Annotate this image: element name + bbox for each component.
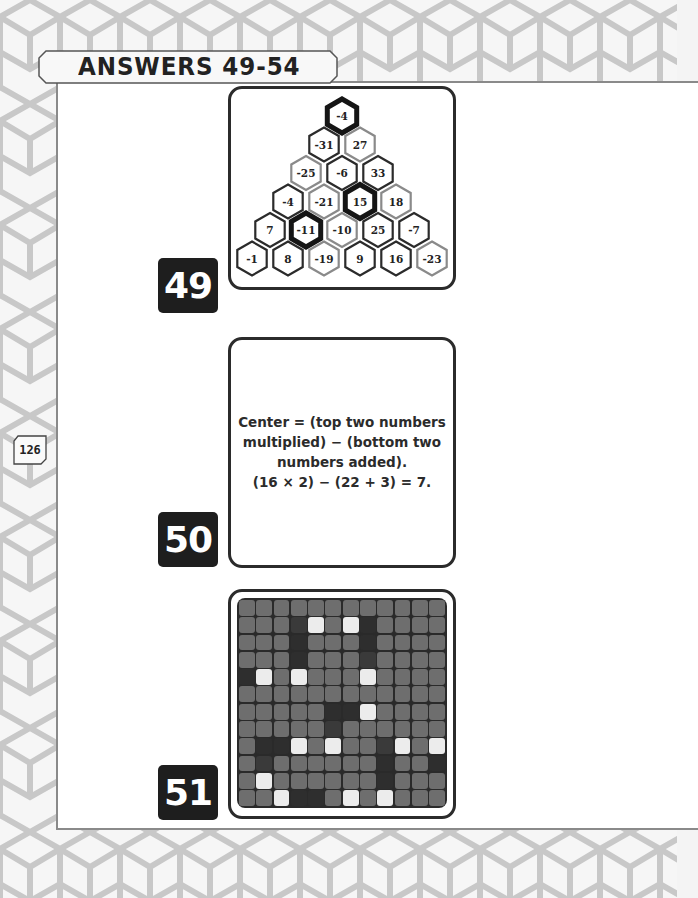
grid-cell bbox=[395, 721, 411, 737]
grid-cell bbox=[412, 669, 428, 685]
grid-cell bbox=[256, 756, 272, 772]
grid-cell bbox=[395, 652, 411, 668]
grid-cell bbox=[291, 721, 307, 737]
hex-value: 27 bbox=[342, 135, 378, 155]
grid-cell bbox=[274, 756, 290, 772]
grid-cell bbox=[343, 721, 359, 737]
grid-cell bbox=[256, 686, 272, 702]
grid-cell bbox=[274, 686, 290, 702]
hex-value: -25 bbox=[288, 163, 324, 183]
grid-cell bbox=[308, 669, 324, 685]
grid-cell bbox=[377, 773, 393, 789]
color-grid bbox=[237, 598, 447, 808]
grid-cell bbox=[429, 617, 445, 633]
grid-cell bbox=[325, 652, 341, 668]
grid-cell bbox=[412, 790, 428, 806]
grid-cell bbox=[343, 669, 359, 685]
grid-cell bbox=[395, 773, 411, 789]
grid-cell bbox=[343, 686, 359, 702]
grid-cell bbox=[256, 721, 272, 737]
page-number-tab: 126 bbox=[13, 435, 47, 465]
grid-cell bbox=[239, 686, 255, 702]
grid-cell bbox=[274, 790, 290, 806]
grid-cell bbox=[412, 635, 428, 651]
grid-cell bbox=[239, 617, 255, 633]
grid-cell bbox=[325, 721, 341, 737]
grid-cell bbox=[291, 635, 307, 651]
grid-cell bbox=[360, 617, 376, 633]
grid-cell bbox=[412, 721, 428, 737]
explanation-line: multiplied) − (bottom two bbox=[231, 432, 453, 452]
grid-cell bbox=[291, 617, 307, 633]
grid-cell bbox=[239, 669, 255, 685]
grid-cell bbox=[239, 635, 255, 651]
hex-value: 9 bbox=[342, 249, 378, 269]
hex-value: -11 bbox=[288, 220, 324, 240]
grid-cell bbox=[239, 773, 255, 789]
grid-cell bbox=[360, 721, 376, 737]
answer-49-box: -4-3127-25-633-4-2115187-11-1025-7-18-19… bbox=[228, 86, 456, 290]
grid-cell bbox=[412, 617, 428, 633]
grid-cell bbox=[395, 600, 411, 616]
hex-value: -31 bbox=[306, 135, 342, 155]
grid-cell bbox=[360, 773, 376, 789]
grid-cell bbox=[429, 600, 445, 616]
grid-cell bbox=[256, 635, 272, 651]
grid-cell bbox=[325, 704, 341, 720]
hex-value: 25 bbox=[360, 220, 396, 240]
grid-cell bbox=[274, 652, 290, 668]
grid-cell bbox=[343, 790, 359, 806]
grid-cell bbox=[395, 704, 411, 720]
hex-value: -4 bbox=[324, 106, 360, 126]
grid-cell bbox=[343, 600, 359, 616]
answer-50-box: Center = (top two numbers multiplied) − … bbox=[228, 337, 456, 568]
hex-value: -7 bbox=[396, 220, 432, 240]
grid-cell bbox=[360, 600, 376, 616]
grid-cell bbox=[377, 600, 393, 616]
hex-value: 33 bbox=[360, 163, 396, 183]
grid-cell bbox=[377, 756, 393, 772]
grid-cell bbox=[256, 669, 272, 685]
grid-cell bbox=[308, 773, 324, 789]
grid-cell bbox=[343, 635, 359, 651]
grid-cell bbox=[360, 686, 376, 702]
grid-cell bbox=[429, 756, 445, 772]
grid-cell bbox=[291, 756, 307, 772]
hex-value: 16 bbox=[378, 249, 414, 269]
grid-cell bbox=[239, 704, 255, 720]
hex-value: -4 bbox=[270, 192, 306, 212]
grid-cell bbox=[325, 635, 341, 651]
explanation-line: (16 × 2) − (22 + 3) = 7. bbox=[231, 472, 453, 492]
grid-cell bbox=[377, 738, 393, 754]
grid-cell bbox=[274, 721, 290, 737]
section-title: ANSWERS 49-54 bbox=[78, 50, 301, 82]
grid-cell bbox=[274, 617, 290, 633]
grid-cell bbox=[325, 790, 341, 806]
grid-cell bbox=[325, 773, 341, 789]
grid-cell bbox=[308, 738, 324, 754]
grid-cell bbox=[412, 738, 428, 754]
grid-cell bbox=[239, 738, 255, 754]
grid-cell bbox=[395, 617, 411, 633]
explanation-line: numbers added). bbox=[231, 452, 453, 472]
grid-cell bbox=[274, 773, 290, 789]
grid-cell bbox=[291, 686, 307, 702]
grid-cell bbox=[360, 756, 376, 772]
grid-cell bbox=[325, 738, 341, 754]
grid-cell bbox=[291, 652, 307, 668]
grid-cell bbox=[291, 790, 307, 806]
grid-cell bbox=[239, 756, 255, 772]
grid-cell bbox=[377, 790, 393, 806]
grid-cell bbox=[412, 704, 428, 720]
grid-cell bbox=[308, 721, 324, 737]
grid-cell bbox=[429, 704, 445, 720]
grid-cell bbox=[239, 721, 255, 737]
grid-cell bbox=[429, 686, 445, 702]
grid-cell bbox=[308, 617, 324, 633]
grid-cell bbox=[291, 773, 307, 789]
grid-cell bbox=[412, 773, 428, 789]
answer-51-box bbox=[228, 589, 456, 819]
hex-value: 7 bbox=[252, 220, 288, 240]
grid-cell bbox=[412, 686, 428, 702]
grid-cell bbox=[377, 652, 393, 668]
